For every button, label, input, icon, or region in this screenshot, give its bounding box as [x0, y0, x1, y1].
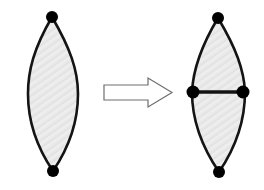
- right-lens-right-vertex: [237, 86, 250, 99]
- right-lens-left-vertex: [187, 86, 200, 99]
- left-lens-top-vertex: [46, 11, 58, 23]
- diagram-canvas: [0, 0, 264, 190]
- left-lens-bottom-vertex: [47, 165, 59, 177]
- transformation-figure: [0, 0, 264, 190]
- right-lens-bottom-vertex: [213, 166, 225, 178]
- right-lens-top-vertex: [212, 12, 224, 24]
